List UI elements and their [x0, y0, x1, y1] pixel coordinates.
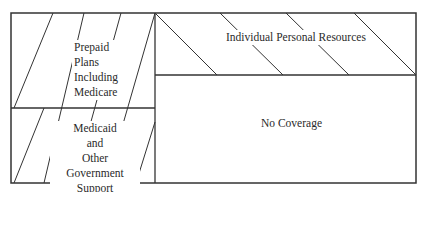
label-line: Support [52, 181, 138, 192]
label-line: and [52, 136, 138, 151]
region-prepaid-plans-label: Prepaid Plans Including Medicare [72, 40, 120, 100]
label-line: Medicaid [52, 121, 138, 136]
label-line: Individual Personal Resources [226, 30, 366, 45]
label-line: Prepaid [74, 40, 118, 55]
region-no-coverage-label: No Coverage [259, 116, 324, 131]
region-individual-resources-label: Individual Personal Resources [224, 30, 368, 45]
label-line: Including [74, 70, 118, 85]
region-medicaid-label: Medicaid and Other Government Support [50, 121, 140, 192]
label-line: Other Government [52, 151, 138, 181]
label-line: No Coverage [261, 116, 322, 131]
label-line: Plans [74, 55, 118, 70]
label-line: Medicare [74, 85, 118, 100]
